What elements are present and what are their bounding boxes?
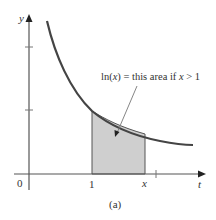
y-axis-label: y <box>18 12 24 24</box>
annotation-mid: ) = this area if <box>117 71 179 83</box>
x-axis-arrow-icon <box>198 171 206 178</box>
x-axis-label: t <box>198 178 202 190</box>
shaded-area <box>92 111 145 174</box>
x-tick-label-x: x <box>141 177 147 189</box>
origin-label: 0 <box>17 177 23 189</box>
figure-caption: (a) <box>109 198 122 211</box>
annotation-text: ln(x) = this area if x > 1 <box>101 71 200 83</box>
pointer-line <box>117 86 137 133</box>
x-tick-label-1: 1 <box>89 178 95 190</box>
y-axis-arrow-icon <box>26 14 33 22</box>
ln-area-diagram: y 0 1 x t ln(x) = this area if x > 1 (a) <box>0 0 216 220</box>
annotation-pre: ln( <box>101 71 113 83</box>
annotation-post: > 1 <box>184 71 200 82</box>
